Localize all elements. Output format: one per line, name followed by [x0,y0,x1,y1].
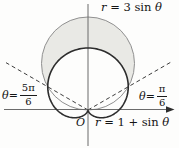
angle-left-numerator: 5π [20,83,37,96]
angle-right-fraction: π 6 [157,84,168,108]
angle-label-5pi-6: θ = 5π 6 [2,83,37,107]
angle-left-denominator: 6 [25,96,31,108]
angle-left-var-theta: θ [2,90,9,101]
angle-label-pi-6: θ = π 6 [139,84,167,108]
cardioid-eq-var-theta: θ [162,115,169,129]
angle-left-fraction: 5π 6 [20,83,37,107]
angle-right-numerator: π [157,84,168,97]
angle-right-denominator: 6 [159,97,165,109]
circle-eq-var-theta: θ [155,0,162,14]
cardioid-equation-label: r = 1 + sin θ [95,117,169,129]
angle-right-var-theta: θ [139,91,146,102]
polar-curves-figure: r = 3 sin θ θ = 5π 6 θ = π 6 O r = 1 + s… [0,0,179,148]
cardioid-eq-mid: = 1 + sin [101,115,163,129]
angle-left-equals: = [9,90,18,101]
circle-equation-label: r = 3 sin θ [101,2,162,14]
angle-right-equals: = [146,91,155,102]
origin-label: O [76,117,85,128]
circle-eq-mid: = 3 sin [107,0,156,14]
